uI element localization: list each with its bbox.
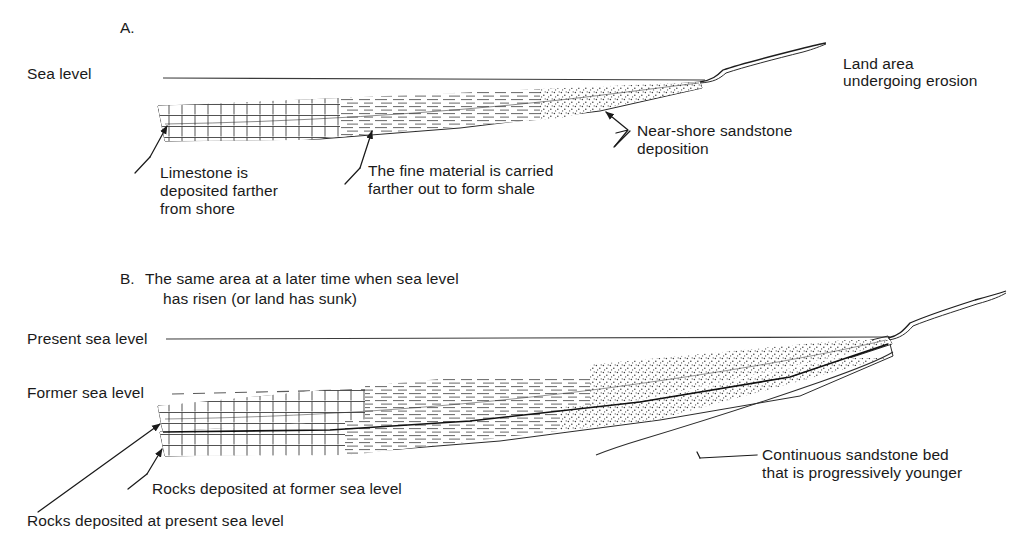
panel-b-caption-line1: The same area at a later time when sea l… xyxy=(145,270,459,287)
former-rocks-leader-tail xyxy=(128,474,147,489)
shale-label-line1: The fine material is carried xyxy=(368,162,553,179)
sandstone-label-line2: deposition xyxy=(637,140,709,157)
limestone-label-line1: Limestone is xyxy=(160,164,248,181)
former-rocks-leader xyxy=(147,449,162,474)
present-rocks-leader xyxy=(38,424,160,512)
sandstone-label-line1: Near-shore sandstone xyxy=(637,122,792,139)
sandstone-bed-label-line2: that is progressively younger xyxy=(762,464,962,481)
sandstone-leader-a xyxy=(606,112,628,146)
former-sea-level-label: Former sea level xyxy=(27,384,144,401)
land-area-label-line1: Land area xyxy=(843,55,914,72)
panel-b-caption-line2: has risen (or land has sunk) xyxy=(163,290,357,307)
present-rocks-label: Rocks deposited at present sea level xyxy=(27,512,284,529)
present-sea-level-label: Present sea level xyxy=(27,330,148,347)
shale-label-line2: farther out to form shale xyxy=(368,180,535,197)
limestone-leader-tail xyxy=(135,157,150,173)
present-sea-level-line xyxy=(166,337,890,339)
shale-leader-tail xyxy=(345,168,360,184)
figure-canvas: A. Sea level Land area undergoing erosio… xyxy=(0,0,1016,544)
limestone-label-line3: from shore xyxy=(160,200,235,217)
former-rocks-label: Rocks deposited at former sea level xyxy=(152,480,402,497)
sandstone-fill-b-upper xyxy=(590,340,900,410)
panel-a-group: A. Sea level Land area undergoing erosio… xyxy=(27,19,978,217)
sandstone-bed-leader xyxy=(700,455,757,458)
limestone-leader-a xyxy=(150,126,167,157)
land-area-label-line2: undergoing erosion xyxy=(843,72,978,89)
wedge-a-fills xyxy=(150,78,715,150)
limestone-label-line2: deposited farther xyxy=(160,182,278,199)
sandstone-bed-label-line1: Continuous sandstone bed xyxy=(762,446,949,463)
sea-level-line-a xyxy=(163,78,705,80)
land-surface-line-b-2 xyxy=(889,293,1006,340)
land-surface-line-a-2 xyxy=(700,44,826,83)
panel-b-group: B. The same area at a later time when se… xyxy=(27,270,1006,529)
panel-b-letter: B. xyxy=(120,270,135,287)
panel-a-letter: A. xyxy=(120,19,135,36)
geology-cross-section-figure: A. Sea level Land area undergoing erosio… xyxy=(0,0,1016,544)
sea-level-label-a: Sea level xyxy=(27,65,92,82)
land-surface-line-b xyxy=(888,291,1006,338)
sandstone-bed-leader-hook xyxy=(697,452,700,458)
